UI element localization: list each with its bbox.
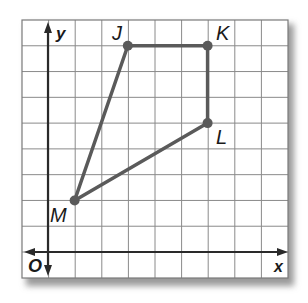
vertex-K	[203, 41, 213, 51]
point-label-J: J	[111, 22, 123, 44]
point-label-K: K	[216, 22, 231, 44]
point-label-L: L	[216, 126, 227, 148]
vertex-M	[70, 195, 80, 205]
vertex-L	[203, 118, 213, 128]
coordinate-plane: y x O J K L M	[0, 0, 308, 303]
origin-label: O	[28, 256, 42, 276]
vertex-J	[123, 41, 133, 51]
point-label-M: M	[50, 204, 67, 226]
y-axis-label: y	[55, 24, 67, 43]
x-axis-label: x	[273, 258, 284, 275]
